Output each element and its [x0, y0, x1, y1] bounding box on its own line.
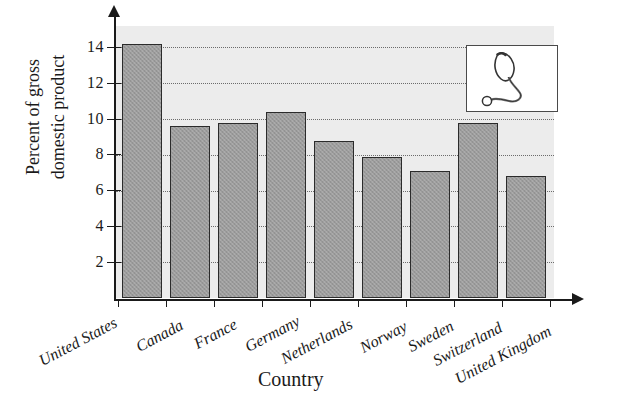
- y-axis-title-line-1: Percent of gross: [21, 0, 46, 237]
- x-axis-line: [114, 299, 574, 301]
- bar-switzerland: [458, 123, 498, 298]
- x-axis-arrow: [572, 293, 584, 305]
- x-tick-mark-9: [550, 299, 551, 307]
- y-tick-mark-6: [107, 190, 121, 191]
- y-axis-title-line-2: domestic product: [46, 0, 71, 237]
- x-tick-label-united-states: United States: [36, 314, 120, 369]
- y-tick-mark-12: [107, 83, 121, 84]
- x-tick-mark-6: [406, 299, 407, 307]
- bar-canada: [170, 126, 210, 298]
- stethoscope-icon: [467, 46, 557, 111]
- y-axis-line: [114, 14, 116, 300]
- bar-united-kingdom: [506, 176, 546, 298]
- x-tick-label-norway: Norway: [357, 317, 410, 356]
- x-tick-mark-4: [310, 299, 311, 307]
- x-tick-mark-2: [214, 299, 215, 307]
- bar-sweden: [410, 171, 450, 298]
- x-tick-label-france: France: [191, 315, 240, 352]
- y-tick-mark-14: [107, 47, 121, 48]
- y-axis-title: Percent of gross domestic product: [21, 0, 71, 237]
- bar-chart-figure: 14 12 10 8 6 4 2 Percent of gross domest…: [0, 0, 619, 408]
- y-tick-label-4: 4: [80, 218, 104, 234]
- y-tick-mark-8: [107, 154, 121, 155]
- bar-norway: [362, 157, 402, 298]
- bar-germany: [266, 112, 306, 298]
- bar-france: [218, 123, 258, 298]
- inset-stethoscope-box: [466, 45, 558, 112]
- y-tick-label-2: 2: [80, 254, 104, 270]
- y-tick-label-10: 10: [80, 111, 104, 127]
- y-tick-label-14: 14: [80, 39, 104, 55]
- x-tick-mark-3: [262, 299, 263, 307]
- y-tick-mark-10: [107, 119, 121, 120]
- x-axis-title: Country: [258, 368, 324, 390]
- y-tick-label-12: 12: [80, 75, 104, 91]
- y-tick-mark-4: [107, 226, 121, 227]
- x-tick-mark-7: [454, 299, 455, 307]
- x-tick-mark-1: [166, 299, 167, 307]
- y-axis-arrow: [108, 5, 120, 17]
- x-tick-mark-8: [502, 299, 503, 307]
- y-tick-label-8: 8: [80, 146, 104, 162]
- bar-united-states: [122, 44, 162, 298]
- x-tick-mark-5: [358, 299, 359, 307]
- y-tick-label-6: 6: [80, 182, 104, 198]
- y-tick-mark-2: [107, 262, 121, 263]
- bar-netherlands: [314, 141, 354, 298]
- x-tick-mark-0: [118, 299, 119, 307]
- x-tick-label-canada: Canada: [133, 316, 186, 355]
